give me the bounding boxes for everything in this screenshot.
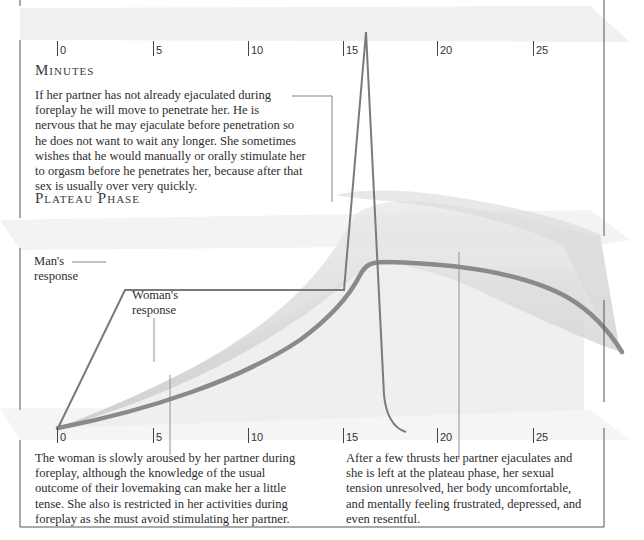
bottom-right-line: After a few thrusts her partner ejaculat… <box>346 451 596 466</box>
top-annotation-line: he does not want to wait any longer. She… <box>35 134 335 149</box>
bottom-tick-label-25: 25 <box>536 431 548 443</box>
top-tick-0 <box>57 41 58 56</box>
top-tick-label-15: 15 <box>346 44 358 56</box>
top-tick-label-0: 0 <box>60 44 66 56</box>
bottom-tick-20 <box>437 428 438 443</box>
bottom-tick-label-5: 5 <box>156 431 162 443</box>
woman-label-line: Woman's <box>132 288 178 303</box>
top-tick-label-10: 10 <box>251 44 263 56</box>
bottom-right-annotation: After a few thrusts her partner ejaculat… <box>346 451 596 527</box>
top-tick-10 <box>248 41 249 56</box>
axis-unit-heading: Minutes <box>35 62 94 79</box>
man-label-line: response <box>34 269 78 284</box>
bottom-left-line: foreplay as she must avoid stimulating h… <box>35 512 335 527</box>
man-response-label: Man's response <box>34 254 78 284</box>
top-tick-label-25: 25 <box>536 44 548 56</box>
top-annotation-line: If her partner has not already ejaculate… <box>35 88 335 103</box>
top-tick-label-5: 5 <box>156 44 162 56</box>
bottom-left-line: outcome of their lovemaking can make her… <box>35 481 335 496</box>
bottom-tick-label-10: 10 <box>251 431 263 443</box>
top-tick-15 <box>343 41 344 56</box>
top-plane <box>20 6 630 42</box>
bottom-tick-5 <box>153 428 154 443</box>
bottom-right-line: and mentally feeling frustrated, depress… <box>346 497 596 512</box>
woman-response-label: Woman's response <box>132 288 178 318</box>
top-tick-label-20: 20 <box>440 44 452 56</box>
top-tick-25 <box>533 41 534 56</box>
man-label-line: Man's <box>34 254 78 269</box>
bottom-right-line: even resentful. <box>346 512 596 527</box>
bottom-tick-label-15: 15 <box>346 431 358 443</box>
top-annotation-line: to orgasm before he penetrates her, beca… <box>35 164 335 179</box>
bottom-tick-0 <box>57 428 58 443</box>
bottom-left-line: The woman is slowly aroused by her partn… <box>35 451 335 466</box>
bottom-tick-label-0: 0 <box>60 431 66 443</box>
top-annotation: If her partner has not already ejaculate… <box>35 88 335 194</box>
woman-label-line: response <box>132 303 178 318</box>
bottom-left-annotation: The woman is slowly aroused by her partn… <box>35 451 335 527</box>
bottom-tick-25 <box>533 428 534 443</box>
top-tick-5 <box>153 41 154 56</box>
bottom-left-line: tense. She also is restricted in her act… <box>35 497 335 512</box>
bottom-left-line: foreplay, although the knowledge of the … <box>35 466 335 481</box>
bottom-right-line: tension unresolved, her body uncomfortab… <box>346 481 596 496</box>
bottom-right-line: she is left at the plateau phase, her se… <box>346 466 596 481</box>
top-annotation-line: nervous that he may ejaculate before pen… <box>35 118 335 133</box>
bottom-tick-label-20: 20 <box>440 431 452 443</box>
top-tick-20 <box>437 41 438 56</box>
bottom-tick-15 <box>343 428 344 443</box>
top-annotation-line: wishes that he would manually or orally … <box>35 149 335 164</box>
bottom-tick-10 <box>248 428 249 443</box>
top-annotation-line: foreplay he will move to penetrate her. … <box>35 103 335 118</box>
phase-heading: Plateau Phase <box>35 190 140 207</box>
